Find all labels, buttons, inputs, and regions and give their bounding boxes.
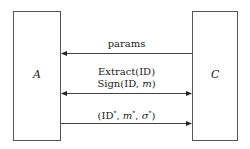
forgery-label: (ID*, m*, σ*) <box>61 107 192 122</box>
arrowhead-left-icon <box>61 91 67 96</box>
params-label: params <box>61 38 192 50</box>
extract-query-label: Extract(ID) <box>61 66 192 78</box>
arrowhead-right-icon <box>186 91 192 96</box>
sign-query-label: Sign(ID, m) <box>61 78 192 90</box>
oracle-queries-label: Extract(ID) Sign(ID, m) <box>61 66 192 90</box>
arrowhead-left-icon <box>61 51 67 56</box>
